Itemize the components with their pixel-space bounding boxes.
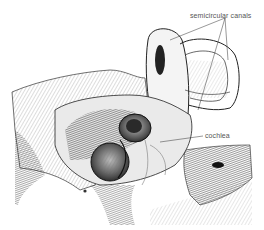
inner-ear-illustration — [0, 0, 264, 230]
label-semicircular-canals: semicircular canals — [190, 12, 251, 19]
annotation-mark-icon — [83, 189, 86, 192]
label-cochlea: cochlea — [205, 132, 230, 139]
